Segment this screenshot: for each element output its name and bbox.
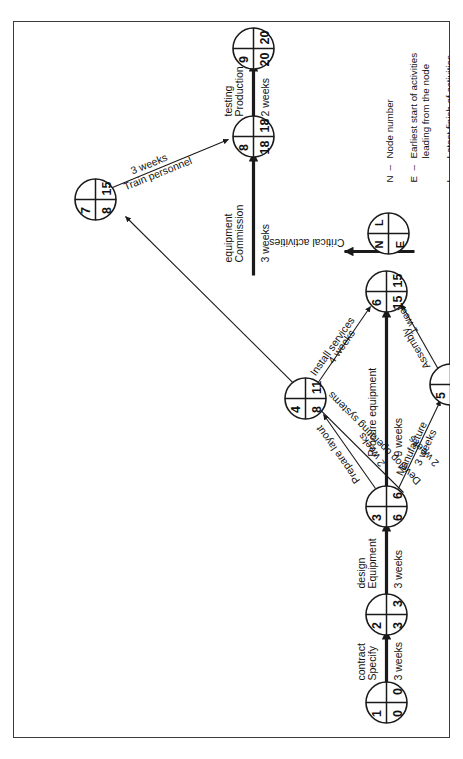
legend-entry-e-line1: Earliest start of activities (407, 52, 418, 158)
figure-page: Specify contract 3 weeks Equipment desig… (0, 0, 463, 759)
node-1-number: 1 (369, 709, 383, 716)
node-7-number: 7 (78, 206, 92, 213)
edge-label-prepare-layout: Prepare layout (313, 423, 362, 486)
node-3-latest: 6 (390, 491, 404, 498)
legend-entry-n-text: Node number (383, 98, 394, 158)
node-2[interactable]: 2 3 3 (366, 594, 407, 635)
legend: N E L N – Node number E – Earliest s (368, 43, 451, 254)
edge-label-production-testing-line2: testing (221, 85, 233, 116)
legend-symbol-n: N (372, 240, 384, 248)
legend-node-symbol: N E L (368, 213, 409, 254)
node-2-earliest: 3 (390, 621, 404, 628)
edge-label-specify-contract-line2: contract (354, 643, 366, 680)
edge-develop-operating-systems: Develop operating systems 2 weeks (125, 216, 440, 492)
node-4-earliest: 8 (309, 405, 323, 412)
edge-duration-commission-equipment: 3 weeks (258, 223, 270, 262)
edge-commission-equipment: Commission equipment 3 weeks (221, 152, 270, 275)
edge-label-equipment-design-line1: Equipment (365, 538, 377, 588)
legend-entry-e-dash: – (407, 164, 418, 170)
edge-assembly: Assembly 1 week (392, 301, 438, 371)
legend-entry-l-line1: Latest finish of activities (443, 54, 450, 158)
node-2-number: 2 (369, 621, 383, 628)
node-6-number: 6 (369, 298, 383, 305)
edge-label-commission-equipment-line1: Commission (232, 204, 244, 262)
edge-duration-production-testing: 2 weeks (258, 77, 270, 116)
node-4[interactable]: 4 8 11 (285, 378, 326, 419)
node-6-earliest: 15 (390, 295, 404, 309)
node-9[interactable]: 9 20 20 (233, 28, 274, 69)
node-5[interactable]: 5 9 14 (430, 364, 451, 405)
edge-equipment-design: Equipment design 3 weeks (354, 522, 403, 599)
edge-label-specify-contract-line1: Specify (365, 645, 377, 680)
node-9-earliest: 20 (257, 52, 271, 66)
node-6-latest: 15 (390, 273, 404, 287)
node-8-latest: 18 (257, 118, 271, 132)
figure-rotation-wrapper: Specify contract 3 weeks Equipment desig… (13, 21, 450, 738)
node-3[interactable]: 3 6 6 (366, 486, 407, 527)
node-7[interactable]: 7 8 15 (75, 179, 116, 220)
legend-entry-e: E – Earliest start of activities leading… (407, 52, 430, 182)
node-8-earliest: 18 (257, 140, 271, 154)
legend-entry-l-key: L (443, 176, 450, 182)
node-4-number: 4 (288, 405, 302, 412)
node-6[interactable]: 6 15 15 (366, 271, 407, 312)
node-8-number: 8 (236, 143, 250, 150)
legend-entry-n-key: N (383, 175, 394, 182)
edge-duration-specify-contract: 3 weeks (391, 641, 403, 680)
node-1[interactable]: 1 0 0 (366, 682, 407, 723)
network-diagram-canvas: Specify contract 3 weeks Equipment desig… (13, 21, 450, 738)
node-4-latest: 11 (309, 380, 323, 393)
critical-activities-label: Critical activities (269, 236, 344, 248)
node-1-earliest: 0 (390, 709, 404, 716)
edge-label-production-testing-line1: Production (232, 66, 244, 116)
edge-label-commission-equipment-line2: equipment (221, 213, 233, 262)
node-3-earliest: 6 (390, 513, 404, 520)
node-3-number: 3 (369, 513, 383, 520)
node-1-latest: 0 (390, 687, 404, 694)
legend-entry-n-dash: – (383, 164, 394, 170)
legend-entry-e-line2: leading from the node (419, 63, 430, 158)
edge-specify-contract: Specify contract 3 weeks (354, 630, 403, 686)
node-8[interactable]: 8 18 18 (233, 116, 274, 157)
legend-entry-l: L – Latest finish of activities reaching… (443, 43, 450, 182)
node-5-number: 5 (433, 391, 447, 398)
legend-symbol-e: E (393, 240, 405, 247)
node-7-earliest: 8 (99, 206, 113, 213)
edge-label-equipment-design-line2: design (354, 557, 366, 588)
edge-install-services: Install services 4 weeks (307, 306, 370, 383)
edge-train-personnel: Train personnel 3 weeks (112, 139, 228, 192)
legend-entry-e-key: E (407, 175, 418, 182)
legend-entry-n: N – Node number (383, 98, 394, 182)
legend-entry-l-dash: – (443, 164, 450, 170)
node-9-latest: 20 (257, 30, 271, 44)
network-diagram-svg: Specify contract 3 weeks Equipment desig… (13, 21, 450, 738)
edge-production-testing: Production testing 2 weeks (221, 62, 270, 121)
node-2-latest: 3 (390, 599, 404, 606)
node-7-latest: 15 (99, 181, 113, 195)
edge-duration-equipment-design: 3 weeks (391, 549, 403, 588)
node-9-number: 9 (236, 55, 250, 62)
legend-symbol-l: L (372, 218, 384, 225)
